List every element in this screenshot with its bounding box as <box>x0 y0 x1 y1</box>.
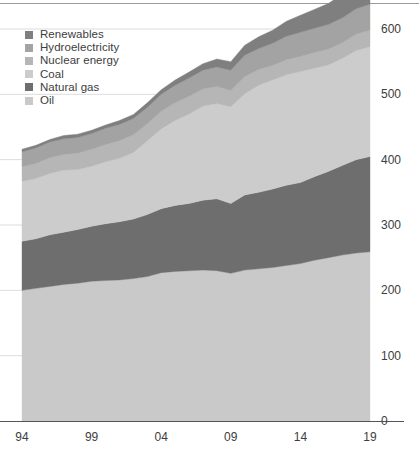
chart-figure: RenewablesHydroelectricityNuclear energy… <box>0 0 419 459</box>
legend-item-label: Nuclear energy <box>40 54 119 67</box>
legend-item-label: Renewables <box>40 28 104 41</box>
legend-item-label: Hydroelectricity <box>40 41 119 54</box>
y-tick-label: 200 <box>381 283 401 297</box>
y-tick-label: 100 <box>381 349 401 363</box>
legend-item-coal[interactable]: Coal <box>25 68 119 81</box>
x-tick-label: 04 <box>141 430 181 444</box>
legend-swatch-icon <box>25 31 33 39</box>
legend-item-renewables[interactable]: Renewables <box>25 28 119 41</box>
legend-item-oil[interactable]: Oil <box>25 94 119 107</box>
legend-swatch-icon <box>25 70 33 78</box>
y-tick-label: 400 <box>381 153 401 167</box>
x-tick-label: 09 <box>211 430 251 444</box>
legend-item-label: Oil <box>40 94 54 107</box>
legend-item-hydroelectricity[interactable]: Hydroelectricity <box>25 41 119 54</box>
legend-swatch-icon <box>25 44 33 52</box>
y-tick-label: 0 <box>381 414 388 428</box>
legend-item-label: Natural gas <box>40 81 99 94</box>
x-tick-label: 19 <box>350 430 390 444</box>
legend-item-label: Coal <box>40 68 64 81</box>
x-tick-label: 94 <box>2 430 42 444</box>
legend-swatch-icon <box>25 97 33 105</box>
legend-swatch-icon <box>25 83 33 91</box>
legend-item-natural-gas[interactable]: Natural gas <box>25 81 119 94</box>
chart-legend: RenewablesHydroelectricityNuclear energy… <box>25 28 119 107</box>
x-tick-label: 99 <box>72 430 112 444</box>
legend-swatch-icon <box>25 57 33 65</box>
y-tick-label: 300 <box>381 218 401 232</box>
y-tick-label: 500 <box>381 87 401 101</box>
legend-item-nuclear-energy[interactable]: Nuclear energy <box>25 54 119 67</box>
x-tick-label: 14 <box>280 430 320 444</box>
y-tick-label: 600 <box>381 22 401 36</box>
